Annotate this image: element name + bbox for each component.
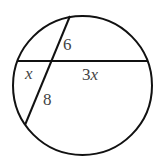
label-right-var: x (90, 65, 99, 84)
label-top-segment: 6 (63, 35, 72, 54)
label-right-segment: 3x (82, 65, 99, 84)
circle (13, 16, 152, 155)
label-right-coef: 3 (82, 65, 91, 84)
intersecting-chords-diagram: 6 x 3x 8 (0, 0, 159, 167)
label-bottom-segment: 8 (43, 90, 52, 109)
label-left-segment: x (24, 64, 33, 83)
